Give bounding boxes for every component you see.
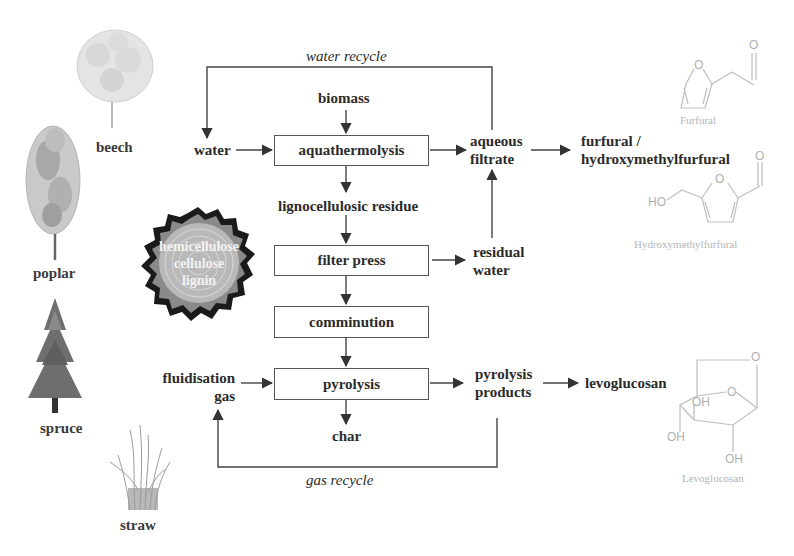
connectors: [0, 0, 794, 556]
levoglucosan-ring-oxygen: O: [727, 385, 736, 399]
furfural-line1: furfural /: [581, 132, 730, 150]
step-pyrolysis: pyrolysis: [274, 368, 429, 400]
pyrolysis-products-line1: pyrolysis: [475, 365, 532, 383]
levoglucosan-oh-2: OH: [667, 430, 685, 444]
furfural-name: Furfural: [680, 114, 716, 126]
straw-label: straw: [120, 517, 156, 534]
gas-recycle-label: gas recycle: [306, 472, 373, 489]
aqueous-filtrate-label: aqueous filtrate: [470, 132, 523, 168]
lignocellulosic-residue-label: lignocellulosic residue: [278, 197, 418, 215]
aqueous-filtrate-line1: aqueous: [470, 132, 523, 150]
step-comminution: comminution: [274, 306, 429, 338]
furfural-ring-oxygen: O: [694, 58, 703, 72]
aqueous-filtrate-line2: filtrate: [470, 150, 523, 168]
lignin-text: lignin: [140, 272, 258, 289]
residual-water-line2: water: [473, 261, 524, 279]
process-diagram: water recycle gas recycle biomass water …: [0, 0, 794, 556]
char-label: char: [332, 427, 361, 445]
residual-water-label: residual water: [473, 243, 524, 279]
water-recycle-label: water recycle: [306, 48, 387, 65]
wood-composition-label: hemicellulose cellulose lignin: [140, 238, 258, 289]
residual-water-line1: residual: [473, 243, 524, 261]
pyrolysis-products-label: pyrolysis products: [475, 365, 532, 401]
pyrolysis-products-line2: products: [475, 383, 532, 401]
hmf-name: Hydroxymethylfurfural: [634, 238, 737, 250]
spruce-label: spruce: [40, 420, 83, 437]
fluidisation-gas-label: fluidisation gas: [157, 369, 235, 405]
biomass-label: biomass: [318, 89, 370, 107]
furfural-carbonyl-oxygen: O: [749, 38, 758, 52]
hmf-ring-oxygen: O: [715, 172, 724, 186]
hmf-hydroxyl: HO: [648, 195, 666, 209]
step-filter-press: filter press: [274, 245, 429, 276]
fluidisation-gas-line1: fluidisation: [157, 369, 235, 387]
levoglucosan-oh-1: OH: [692, 395, 710, 409]
levoglucosan-name: Levoglucosan: [682, 472, 744, 484]
hmf-carbonyl-oxygen: O: [755, 149, 764, 163]
hemicellulose-text: hemicellulose: [140, 238, 258, 255]
levoglucosan-bridge-oxygen: O: [751, 350, 760, 364]
poplar-label: poplar: [33, 265, 76, 282]
levoglucosan-product-label: levoglucosan: [585, 374, 667, 392]
furfural-product-label: furfural / hydroxymethylfurfural: [581, 132, 730, 168]
levoglucosan-oh-3: OH: [725, 452, 743, 466]
cellulose-text: cellulose: [140, 255, 258, 272]
water-label: water: [194, 141, 231, 159]
furfural-line2: hydroxymethylfurfural: [581, 150, 730, 168]
step-aquathermolysis: aquathermolysis: [274, 135, 429, 166]
fluidisation-gas-line2: gas: [157, 387, 235, 405]
beech-label: beech: [96, 139, 133, 156]
